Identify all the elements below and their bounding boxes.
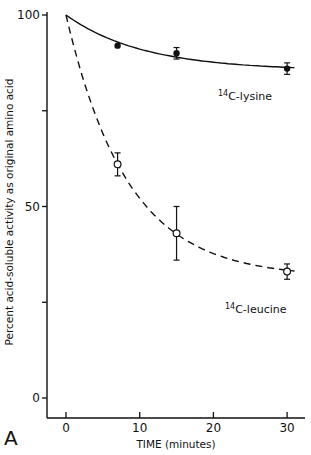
y-ticks: 050100 (17, 8, 47, 405)
data-point (173, 230, 180, 237)
series-label-lysine: 14C-lysine (218, 89, 272, 103)
y-tick-label: 50 (25, 200, 40, 214)
series-leucine (66, 15, 295, 279)
series-label-leucine: 14C-leucine (225, 302, 287, 316)
fit-curve (66, 15, 295, 68)
y-tick-label: 100 (17, 8, 40, 22)
data-point (284, 65, 290, 71)
x-tick-label: 30 (279, 421, 294, 435)
panel-label: A (4, 426, 18, 450)
y-axis-label: Percent acid-soluble activity as origina… (3, 79, 15, 346)
x-tick-label: 10 (132, 421, 147, 435)
data-point (284, 268, 291, 275)
x-axis-label: TIME (minutes) (135, 438, 215, 450)
data-point (173, 50, 179, 56)
x-tick-label: 0 (62, 421, 70, 435)
x-ticks: 0102030 (62, 412, 295, 435)
series-lysine (66, 15, 295, 74)
data-point (114, 161, 121, 168)
data-point (114, 42, 120, 48)
chart: 050100 0102030 14C-lysine 14C-leucine Pe… (0, 0, 311, 455)
y-tick-label: 0 (32, 391, 40, 405)
x-tick-label: 20 (206, 421, 221, 435)
